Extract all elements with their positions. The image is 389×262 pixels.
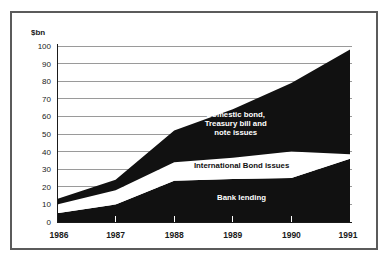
y-axis-unit-label: $bn bbox=[31, 28, 45, 37]
y-tick-label-80: 80 bbox=[42, 77, 51, 86]
chart-figure: 0102030405060708090100 19861987198819891… bbox=[0, 0, 389, 262]
x-tick-label-1989: 1989 bbox=[223, 230, 242, 240]
x-tick-label-1988: 1988 bbox=[165, 230, 184, 240]
series-annotation-4: Bank lending bbox=[217, 193, 266, 202]
y-tick-label-90: 90 bbox=[42, 60, 51, 69]
x-tick-label-1991: 1991 bbox=[339, 230, 358, 240]
y-tick-label-20: 20 bbox=[42, 183, 51, 192]
series-annotation-1: Treasury bill and bbox=[205, 119, 267, 128]
y-tick-label-60: 60 bbox=[42, 112, 51, 121]
y-tick-label-30: 30 bbox=[42, 165, 51, 174]
x-tick-label-1987: 1987 bbox=[106, 230, 125, 240]
x-axis-tick-labels: 198619871988198919901991 bbox=[50, 230, 358, 240]
series-annotation-2: note issues bbox=[214, 128, 258, 137]
stacked-area-bands bbox=[57, 50, 350, 222]
y-tick-label-50: 50 bbox=[42, 130, 51, 139]
x-tick-label-1986: 1986 bbox=[50, 230, 69, 240]
y-tick-label-100: 100 bbox=[38, 42, 52, 51]
y-tick-label-70: 70 bbox=[42, 95, 51, 104]
y-tick-label-0: 0 bbox=[47, 218, 52, 227]
area-chart-canvas: 0102030405060708090100 19861987198819891… bbox=[0, 0, 389, 262]
y-tick-label-10: 10 bbox=[42, 200, 51, 209]
series-annotation-3: International Bond issues bbox=[194, 161, 290, 170]
series-annotation-0: Domestic bond, bbox=[206, 110, 264, 119]
y-tick-label-40: 40 bbox=[42, 148, 51, 157]
x-tick-label-1990: 1990 bbox=[282, 230, 301, 240]
y-axis-tick-labels: 0102030405060708090100 bbox=[38, 42, 52, 227]
